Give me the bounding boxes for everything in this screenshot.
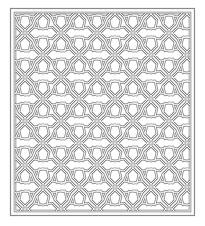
lattice-figure <box>0 0 205 226</box>
lattice-pattern <box>0 0 205 226</box>
